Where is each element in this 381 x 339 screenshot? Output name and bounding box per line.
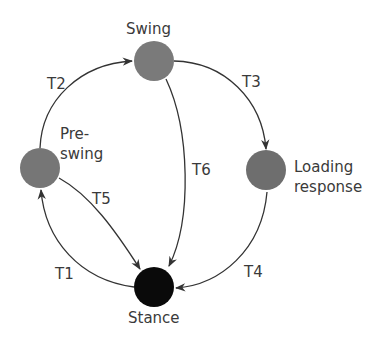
label-swing: Swing <box>126 20 171 38</box>
node-preswing <box>20 148 60 188</box>
node-swing <box>134 41 174 81</box>
label-loading-1: Loading <box>294 158 353 176</box>
label-loading-2: response <box>294 178 362 196</box>
label-preswing-2: swing <box>60 145 103 163</box>
edge-label-t3: T3 <box>242 73 261 91</box>
edge-label-t5: T5 <box>92 190 111 208</box>
node-loading-response <box>246 150 286 190</box>
edge-label-t1: T1 <box>55 265 74 283</box>
label-preswing-1: Pre- <box>60 125 89 143</box>
edge-label-t2: T2 <box>47 75 66 93</box>
edge-label-t4: T4 <box>244 263 263 281</box>
node-stance <box>134 267 174 307</box>
edge-t6 <box>166 79 185 266</box>
edge-label-t6: T6 <box>192 161 211 179</box>
label-stance: Stance <box>128 309 180 327</box>
